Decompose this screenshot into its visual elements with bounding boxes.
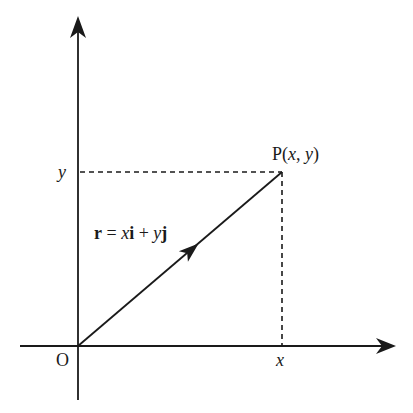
position-vector-line bbox=[78, 172, 282, 346]
vector-diagram: O x y P(x, y) r = xi + yj bbox=[0, 0, 413, 413]
point-x: x bbox=[287, 144, 296, 164]
vector-y: y bbox=[151, 223, 161, 243]
point-label: P(x, y) bbox=[272, 144, 319, 165]
vector-x: x bbox=[120, 223, 129, 243]
vector-eq: = bbox=[102, 223, 121, 243]
point-name: P bbox=[272, 144, 282, 164]
point-y: y bbox=[303, 144, 313, 164]
unit-j: j bbox=[160, 223, 167, 243]
origin-label: O bbox=[56, 350, 69, 370]
point-close-paren: ) bbox=[313, 144, 319, 165]
vector-r: r bbox=[94, 223, 102, 243]
y-tick-label: y bbox=[56, 162, 66, 182]
vector-equation: r = xi + yj bbox=[94, 223, 167, 243]
x-tick-label: x bbox=[275, 350, 284, 370]
point-sep: , bbox=[296, 144, 305, 164]
vector-plus: + bbox=[134, 223, 153, 243]
